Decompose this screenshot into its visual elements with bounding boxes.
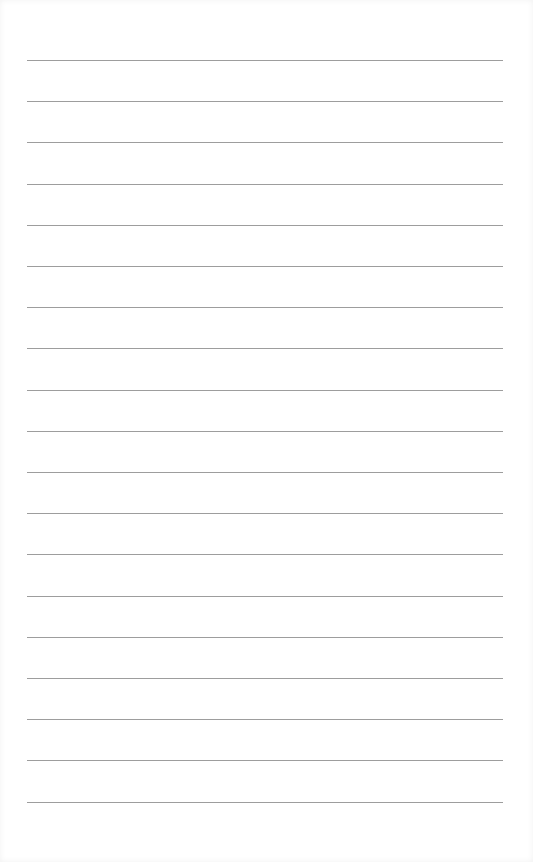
ruled-line [27, 513, 503, 514]
ruled-line [27, 719, 503, 720]
ruled-line [27, 637, 503, 638]
ruled-line [27, 431, 503, 432]
ruled-line [27, 802, 503, 803]
ruled-line [27, 142, 503, 143]
ruled-line [27, 596, 503, 597]
ruled-line [27, 101, 503, 102]
ruled-line [27, 472, 503, 473]
ruled-line [27, 390, 503, 391]
ruled-line [27, 348, 503, 349]
ruled-line [27, 678, 503, 679]
ruled-line [27, 60, 503, 61]
ruled-line [27, 554, 503, 555]
ruled-line [27, 760, 503, 761]
ruled-line [27, 225, 503, 226]
ruled-line [27, 266, 503, 267]
ruled-line [27, 184, 503, 185]
ruled-line [27, 307, 503, 308]
lined-paper-page [0, 0, 533, 862]
